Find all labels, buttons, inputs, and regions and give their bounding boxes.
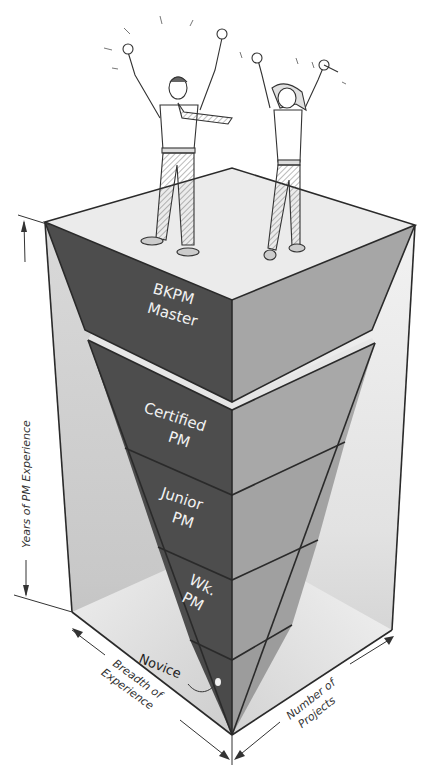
pm-maturity-diagram: BKPM Master Certified PM Junior PM Wk. P… — [0, 0, 432, 771]
motion-lines — [104, 16, 346, 84]
label-years: Years of PM Experience — [20, 420, 33, 548]
novice-dot — [215, 678, 221, 686]
